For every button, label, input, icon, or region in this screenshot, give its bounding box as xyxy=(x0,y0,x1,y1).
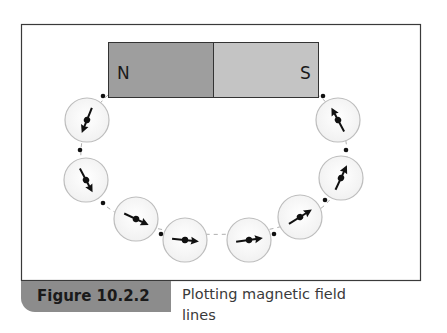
figure-caption: Plotting magnetic field lines xyxy=(182,284,352,326)
compass xyxy=(316,98,360,142)
plot-point xyxy=(101,201,106,206)
plot-point xyxy=(272,232,277,237)
plot-point xyxy=(101,94,106,99)
compass xyxy=(278,195,322,239)
compass xyxy=(65,98,109,142)
compass xyxy=(114,197,158,241)
compass xyxy=(64,158,108,202)
compass xyxy=(163,218,207,262)
bar-magnet: N S xyxy=(109,43,319,98)
plot-point xyxy=(159,232,164,237)
figure-number-label: Figure 10.2.2 xyxy=(21,281,171,312)
plot-point xyxy=(344,148,349,153)
south-label: S xyxy=(300,63,311,83)
plot-point xyxy=(321,94,326,99)
compass xyxy=(319,156,363,200)
north-label: N xyxy=(117,63,130,83)
plot-point xyxy=(78,148,83,153)
plot-point xyxy=(323,198,328,203)
compass xyxy=(227,218,271,262)
